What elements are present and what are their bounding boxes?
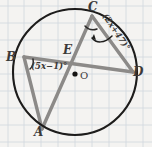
figure-vectors	[0, 0, 152, 147]
center-dot	[72, 71, 77, 76]
geometry-diagram: C B D A E O (5x−1)° (2x+47)°	[0, 0, 152, 147]
center-label-o: O	[80, 71, 88, 81]
point-label-c: C	[88, 1, 98, 13]
point-label-a: A	[34, 126, 43, 138]
point-label-d: D	[133, 66, 143, 78]
point-label-b: B	[6, 51, 16, 63]
angle-label-b: (5x−1)°	[31, 62, 67, 71]
point-label-e: E	[63, 44, 72, 56]
